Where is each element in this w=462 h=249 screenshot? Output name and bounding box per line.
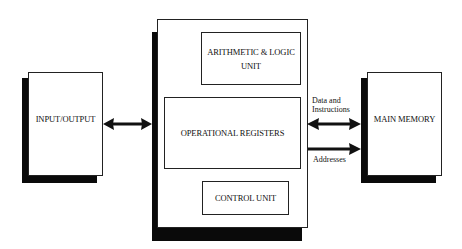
data-arrow — [307, 118, 361, 130]
io-cpu-arrow — [103, 118, 152, 130]
data-label-line1: Data and — [312, 96, 341, 105]
data-label-line2: Instructions — [312, 105, 350, 114]
addresses-label: Addresses — [313, 155, 346, 164]
connection-arrows — [0, 0, 462, 249]
addresses-arrow — [308, 143, 361, 155]
